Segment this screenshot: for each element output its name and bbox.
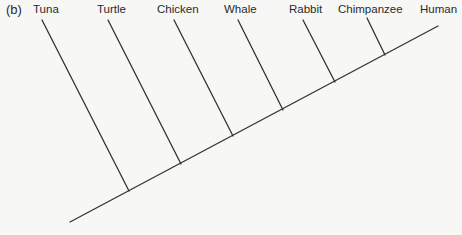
branch-tuna	[42, 20, 129, 191]
branch-chicken	[174, 20, 233, 136]
branch-turtle	[108, 20, 181, 164]
main-lineage	[70, 26, 438, 222]
branch-whale	[238, 20, 283, 110]
branch-rabbit	[303, 20, 335, 82]
cladogram-tree	[0, 0, 462, 235]
branch-chimpanzee	[367, 18, 385, 55]
